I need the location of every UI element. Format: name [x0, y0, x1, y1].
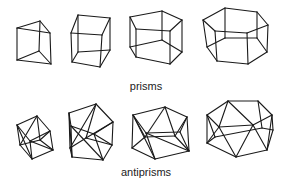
- edge: [130, 17, 136, 29]
- edge: [50, 33, 51, 64]
- edge: [132, 137, 145, 148]
- edge: [262, 128, 273, 130]
- edge: [132, 115, 133, 148]
- edge: [94, 134, 103, 160]
- edge: [102, 18, 110, 35]
- edge: [215, 31, 217, 61]
- hexagonal-prism: [203, 8, 268, 64]
- edge: [17, 28, 50, 33]
- edge: [112, 122, 113, 145]
- edge: [175, 136, 189, 151]
- edge: [225, 8, 257, 12]
- edge: [219, 101, 228, 127]
- edge: [86, 138, 112, 145]
- square-antiprism: [17, 116, 53, 159]
- edge: [72, 62, 100, 67]
- edge: [217, 61, 248, 64]
- edge: [257, 38, 267, 52]
- pentagonal-prism: [130, 11, 182, 64]
- pentagonal-antiprism: [69, 104, 113, 160]
- prisms-label: prisms: [86, 80, 206, 92]
- edge: [236, 150, 267, 157]
- edge: [39, 51, 51, 64]
- edge: [253, 115, 272, 125]
- cube: [71, 15, 110, 67]
- edge: [203, 8, 225, 20]
- edge: [39, 21, 40, 51]
- edge: [17, 51, 39, 60]
- edge: [236, 125, 253, 157]
- antiprisms-row: [17, 101, 273, 160]
- edge: [50, 131, 53, 150]
- edge: [207, 47, 217, 61]
- edge: [267, 115, 272, 150]
- edge: [133, 115, 145, 137]
- edge: [32, 150, 53, 159]
- edge: [100, 50, 110, 67]
- edge: [257, 12, 268, 25]
- edge: [130, 47, 136, 57]
- edge: [219, 125, 253, 127]
- edge: [17, 21, 40, 28]
- edge: [78, 50, 110, 52]
- edge: [30, 141, 53, 150]
- edge: [215, 31, 247, 33]
- edge: [228, 101, 253, 125]
- edge: [248, 52, 267, 64]
- hexagonal-antiprism: [132, 107, 189, 159]
- triangular-prism: [17, 21, 51, 64]
- edge: [70, 104, 96, 148]
- edge: [145, 136, 175, 137]
- edge: [71, 33, 72, 62]
- edge: [267, 25, 268, 52]
- edge: [17, 60, 51, 64]
- edge: [272, 115, 273, 130]
- edge: [162, 11, 182, 20]
- edge: [136, 29, 170, 31]
- edge: [40, 140, 53, 150]
- edge: [72, 157, 103, 160]
- edge: [78, 15, 110, 18]
- edge: [103, 145, 112, 160]
- prisms-row: [17, 8, 268, 67]
- edge: [207, 127, 219, 143]
- edge: [207, 101, 228, 115]
- antiprisms-label: antiprisms: [86, 166, 206, 178]
- edge: [146, 132, 180, 133]
- edge: [187, 117, 189, 151]
- edge: [71, 33, 102, 35]
- edge: [72, 52, 78, 62]
- edge: [130, 40, 162, 47]
- edge: [162, 40, 182, 52]
- edge: [170, 52, 182, 64]
- edge: [130, 11, 162, 17]
- edge: [203, 20, 207, 47]
- octagonal-antiprism: [207, 101, 273, 157]
- edge: [155, 151, 189, 159]
- edge: [170, 20, 182, 31]
- edge: [136, 57, 170, 64]
- edge: [96, 104, 113, 122]
- edge: [71, 15, 78, 33]
